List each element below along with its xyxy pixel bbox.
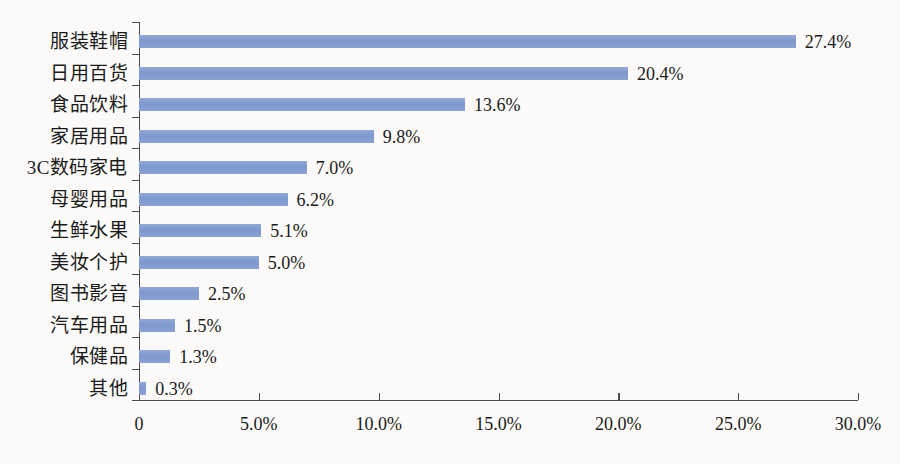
y-axis-tick (132, 148, 139, 149)
y-axis-tick (132, 337, 139, 338)
bar (139, 319, 175, 332)
y-axis-tick (132, 243, 139, 244)
bar-value-label-12: 0.3% (155, 380, 193, 398)
x-axis-tick (618, 393, 619, 400)
bar-value-label-11: 1.3% (179, 348, 217, 366)
bar-value-label-2: 20.4% (637, 65, 684, 83)
y-axis-tick (132, 369, 139, 370)
bar (139, 193, 288, 206)
x-axis-tick (858, 393, 859, 400)
bar (139, 350, 170, 363)
category-label-9: 图书影音 (0, 284, 128, 303)
bar (139, 256, 259, 269)
y-axis-tick (132, 180, 139, 181)
bar (139, 67, 628, 80)
x-axis-tick-label-3: 10.0% (355, 415, 402, 433)
category-label-7: 生鲜水果 (0, 221, 128, 240)
category-label-8: 美妆个护 (0, 253, 128, 272)
x-axis-tick-label-6: 25.0% (715, 415, 762, 433)
y-axis-tick (132, 85, 139, 86)
x-axis-tick-label-4: 15.0% (475, 415, 522, 433)
category-label-2: 日用百货 (0, 64, 128, 83)
bar-value-label-10: 1.5% (184, 317, 222, 335)
category-label-3: 食品饮料 (0, 95, 128, 114)
bar-value-label-5: 7.0% (316, 159, 354, 177)
bar-value-label-6: 6.2% (297, 191, 335, 209)
category-label-1: 服装鞋帽 (0, 32, 128, 51)
y-axis-tick (132, 54, 139, 55)
y-axis-tick (132, 306, 139, 307)
bar (139, 35, 796, 48)
bar-value-label-8: 5.0% (268, 254, 306, 272)
x-axis-tick (259, 393, 260, 400)
category-label-4: 家居用品 (0, 127, 128, 146)
bar (139, 98, 465, 111)
category-label-12: 其他 (0, 379, 128, 398)
bar-value-label-9: 2.5% (208, 285, 246, 303)
x-axis-tick-label-5: 20.0% (595, 415, 642, 433)
category-label-6: 母婴用品 (0, 190, 128, 209)
category-label-11: 保健品 (0, 347, 128, 366)
y-axis-tick (132, 22, 139, 23)
bar-value-label-7: 5.1% (270, 222, 308, 240)
bar-value-label-1: 27.4% (805, 33, 852, 51)
x-axis-tick-label-1: 0 (135, 415, 144, 433)
bar-value-label-4: 9.8% (383, 128, 421, 146)
x-axis-tick (738, 393, 739, 400)
y-axis-tick (132, 117, 139, 118)
bar (139, 161, 307, 174)
bar (139, 130, 374, 143)
bar-value-label-3: 13.6% (474, 96, 521, 114)
bar (139, 382, 146, 395)
y-axis-tick (132, 400, 139, 401)
bar-chart: 服装鞋帽27.4%日用百货20.4%食品饮料13.6%家居用品9.8%3C数码家… (0, 0, 900, 464)
y-axis-tick (132, 274, 139, 275)
x-axis-tick (499, 393, 500, 400)
x-axis-line (139, 400, 858, 401)
bar (139, 224, 261, 237)
x-axis-tick-label-2: 5.0% (240, 415, 278, 433)
category-label-5: 3C数码家电 (0, 158, 128, 177)
category-label-10: 汽车用品 (0, 316, 128, 335)
bar (139, 287, 199, 300)
x-axis-tick (379, 393, 380, 400)
x-axis-tick-label-7: 30.0% (835, 415, 882, 433)
y-axis-tick (132, 211, 139, 212)
